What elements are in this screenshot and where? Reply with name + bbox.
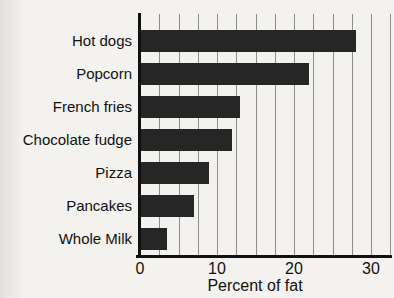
x-tick-label: 0 [118, 260, 162, 278]
plot-area [140, 14, 392, 256]
fat-content-bar-chart: Hot dogsPopcornFrench friesChocolate fud… [0, 0, 394, 298]
x-axis-line [136, 255, 392, 258]
category-label: Whole Milk [0, 228, 132, 250]
bar-popcorn [140, 63, 309, 85]
category-label: Pizza [0, 162, 132, 184]
category-label: Hot dogs [0, 30, 132, 52]
bar-french-fries [140, 96, 240, 118]
bar-whole-milk [140, 228, 167, 250]
x-tick-label: 20 [272, 260, 316, 278]
x-axis-title: Percent of fat [155, 277, 355, 295]
x-tick-label: 10 [195, 260, 239, 278]
category-label: Chocolate fudge [0, 129, 132, 151]
y-axis-line [138, 13, 141, 258]
gridline [371, 14, 372, 256]
x-tick-label: 30 [349, 260, 393, 278]
category-label: French fries [0, 96, 132, 118]
gridline [390, 14, 391, 256]
category-label: Pancakes [0, 195, 132, 217]
bar-pizza [140, 162, 209, 184]
bar-pancakes [140, 195, 194, 217]
bar-hot-dogs [140, 30, 356, 52]
category-label: Popcorn [0, 63, 132, 85]
bar-chocolate-fudge [140, 129, 232, 151]
